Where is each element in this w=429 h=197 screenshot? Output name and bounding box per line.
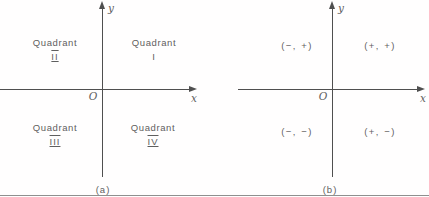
caption-a: (a) [96, 184, 111, 195]
quadrant-1-word: Quadrant [132, 36, 176, 50]
quadrant-3-numeral: III [50, 135, 61, 149]
bottom-rule-divider [0, 195, 429, 196]
origin-label-a: O [89, 90, 98, 102]
x-axis-label-b: x [420, 92, 426, 104]
y-axis-arrowhead-icon-b [329, 1, 335, 9]
caption-b: (b) [323, 184, 338, 195]
quadrant-2-word: Quadrant [33, 36, 77, 50]
sign-pair-q1: (+, +) [364, 40, 396, 51]
y-axis-line-a [102, 8, 103, 177]
sign-pair-q3: (−, −) [281, 126, 313, 137]
quadrant-1-numeral: I [152, 50, 156, 64]
y-axis-arrowhead-icon-a [99, 1, 105, 9]
quadrant-4-word: Quadrant [131, 121, 175, 135]
sign-pair-q2: (−, +) [281, 40, 313, 51]
origin-label-b: O [319, 90, 328, 102]
quadrant-4-numeral: IV [148, 135, 159, 149]
quadrant-4-label: Quadrant IV [131, 121, 175, 149]
y-axis-line-b [332, 8, 333, 177]
x-axis-label-a: x [191, 92, 197, 104]
y-axis-label-a: y [108, 2, 114, 14]
quadrant-figure: y x O Quadrant II Quadrant I Quadrant II… [0, 0, 429, 197]
quadrant-2-numeral: II [51, 50, 58, 64]
y-axis-label-b: y [338, 2, 344, 14]
quadrant-3-label: Quadrant III [33, 121, 77, 149]
quadrant-2-label: Quadrant II [33, 36, 77, 64]
quadrant-1-label: Quadrant I [132, 36, 176, 64]
quadrant-3-word: Quadrant [33, 121, 77, 135]
sign-pair-q4: (+, −) [364, 126, 396, 137]
